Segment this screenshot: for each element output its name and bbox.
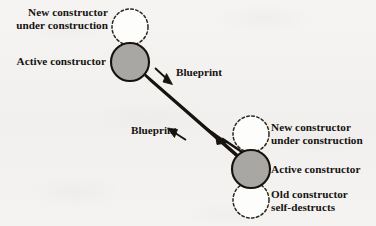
right-old-constructor-label: Old constructor self-destructs: [271, 188, 348, 214]
left-new-constructor-label-line1: New constructor: [0, 6, 108, 19]
left-new-constructor-label-line2: under construction: [0, 19, 108, 32]
left-active-constructor-label: Active constructor: [0, 55, 106, 68]
right-active-constructor-label: Active constructor: [271, 163, 360, 176]
right-new-constructor-circle: [233, 116, 269, 152]
blueprint-top-label: Blueprint: [176, 66, 222, 78]
right-new-constructor-label-line1: New constructor: [271, 121, 363, 134]
left-new-constructor-circle: [112, 9, 148, 45]
right-old-constructor-label-line1: Old constructor: [271, 188, 348, 201]
right-new-constructor-label-line2: under construction: [271, 134, 363, 147]
beam-lower-band: [145, 76, 250, 169]
right-new-constructor-label: New constructor under construction: [271, 121, 363, 147]
left-new-constructor-label: New constructor under construction: [0, 6, 108, 32]
right-active-constructor-circle: [232, 150, 270, 188]
blueprint-transmission-beam: [141, 71, 251, 169]
right-active-constructor-label-line1: Active constructor: [271, 163, 360, 176]
blueprint-top-arrowhead: [155, 68, 173, 85]
left-active-constructor-circle: [111, 43, 149, 81]
beam-upper-band: [141, 71, 248, 164]
right-old-constructor-label-line2: self-destructs: [271, 201, 348, 214]
left-active-constructor-label-line1: Active constructor: [0, 55, 106, 68]
blueprint-bottom-label: Blueprint: [131, 124, 177, 136]
diagram-canvas: New constructor under construction Activ…: [0, 0, 376, 226]
